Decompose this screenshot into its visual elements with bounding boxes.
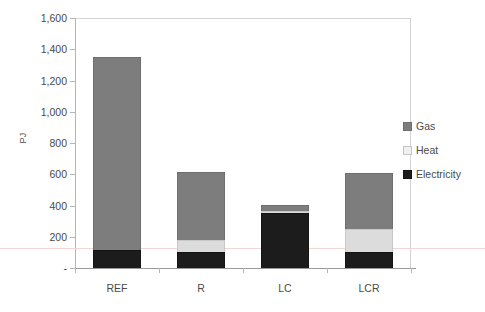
legend-swatch-icon (403, 170, 412, 179)
x-axis-tick-mark (327, 268, 328, 273)
legend-swatch-icon (403, 122, 412, 131)
chart-figure: PJ 1,6001,4001,2001,000800600400200- REF… (0, 0, 485, 312)
legend-item[interactable]: Heat (403, 138, 483, 162)
x-axis-tick-mark (243, 268, 244, 273)
legend-item-label: Heat (416, 144, 438, 156)
x-axis-tick-label: REF (107, 282, 128, 294)
legend-item-label: Gas (416, 120, 435, 132)
legend-item-label: Electricity (416, 168, 461, 180)
x-axis-tick-label: LCR (358, 282, 379, 294)
x-axis-tick-label: R (197, 282, 205, 294)
x-axis-tick-label: LC (278, 282, 291, 294)
legend-swatch-icon (403, 146, 412, 155)
chart-legend: GasHeatElectricity (403, 114, 483, 186)
legend-item[interactable]: Electricity (403, 162, 483, 186)
x-axis-tick-mark (75, 268, 76, 273)
legend-item[interactable]: Gas (403, 114, 483, 138)
x-axis-tick-mark (411, 268, 412, 273)
x-axis-tick-mark (159, 268, 160, 273)
